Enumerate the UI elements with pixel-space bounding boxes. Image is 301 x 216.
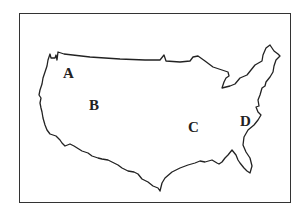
- map-label-c: C: [188, 120, 199, 135]
- map-label-a: A: [63, 66, 74, 81]
- map-label-b: B: [89, 98, 99, 113]
- map-label-d: D: [240, 114, 251, 129]
- us-outline-map: [0, 0, 301, 216]
